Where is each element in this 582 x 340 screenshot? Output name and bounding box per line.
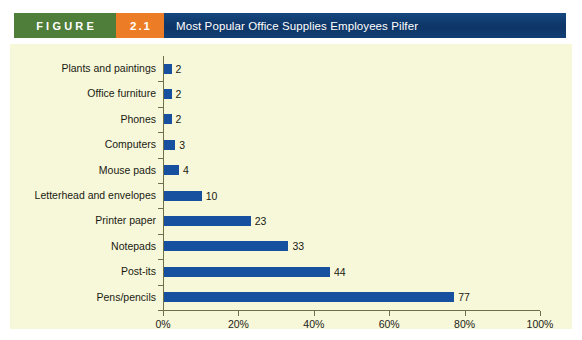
category-label: Computers: [105, 132, 156, 157]
plot-area: Plants and paintings2Office furniture2Ph…: [163, 56, 540, 310]
x-axis-line: [163, 310, 540, 311]
figure-container: FIGURE 2.1 Most Popular Office Supplies …: [0, 0, 582, 340]
bar-value-label: 33: [292, 240, 304, 252]
bar-row: Office furniture2: [164, 81, 541, 106]
figure-title: Most Popular Office Supplies Employees P…: [176, 20, 418, 32]
y-axis-tick: [158, 183, 163, 184]
bar-row: Notepads33: [164, 234, 541, 259]
x-axis-tick-label: 60%: [379, 318, 400, 330]
bar-row: Phones2: [164, 107, 541, 132]
x-axis-tick: [389, 311, 390, 316]
category-label: Pens/pencils: [96, 285, 156, 310]
bar-row: Post-its44: [164, 259, 541, 284]
y-axis-tick: [158, 158, 163, 159]
y-axis-tick: [158, 81, 163, 82]
y-axis-tick: [158, 107, 163, 108]
x-axis-tick: [465, 311, 466, 316]
bar-value-label: 44: [334, 266, 346, 278]
bar: [164, 191, 202, 201]
x-axis-tick-label: 0%: [155, 318, 170, 330]
x-axis-tick-label: 20%: [228, 318, 249, 330]
y-axis-tick: [158, 285, 163, 286]
bar: [164, 140, 175, 150]
y-axis-tick: [158, 208, 163, 209]
category-label: Phones: [120, 107, 156, 132]
x-axis-tick-label: 40%: [303, 318, 324, 330]
bar-row: Pens/pencils77: [164, 285, 541, 310]
category-label: Letterhead and envelopes: [35, 183, 156, 208]
figure-header: FIGURE 2.1 Most Popular Office Supplies …: [14, 13, 566, 38]
bar-row: Computers3: [164, 132, 541, 157]
bar: [164, 165, 179, 175]
category-label: Plants and paintings: [61, 56, 156, 81]
category-label: Notepads: [111, 234, 156, 259]
x-axis-tick-label: 100%: [527, 318, 554, 330]
bar: [164, 64, 172, 74]
x-axis-tick: [540, 311, 541, 316]
bar-value-label: 77: [458, 291, 470, 303]
figure-number-block: 2.1: [116, 13, 164, 38]
bar-row: Letterhead and envelopes10: [164, 183, 541, 208]
bar-row: Plants and paintings2: [164, 56, 541, 81]
y-axis-tick: [158, 234, 163, 235]
bar-value-label: 2: [176, 113, 182, 125]
bar-row: Mouse pads4: [164, 158, 541, 183]
bar-value-label: 2: [176, 88, 182, 100]
figure-word-block: FIGURE: [14, 13, 116, 38]
x-axis-tick-label: 80%: [454, 318, 475, 330]
figure-word-label: FIGURE: [33, 20, 97, 32]
bar-value-label: 4: [183, 164, 189, 176]
category-label: Office furniture: [87, 81, 156, 106]
bar: [164, 216, 251, 226]
figure-number-label: 2.1: [128, 20, 152, 32]
bar: [164, 267, 330, 277]
bar-row: Printer paper23: [164, 208, 541, 233]
bar: [164, 114, 172, 124]
x-axis-tick: [163, 311, 164, 316]
x-axis-tick: [314, 311, 315, 316]
bar: [164, 292, 454, 302]
y-axis-tick: [158, 132, 163, 133]
bar-value-label: 3: [179, 139, 185, 151]
bar-value-label: 23: [255, 215, 267, 227]
category-label: Post-its: [121, 259, 156, 284]
category-label: Mouse pads: [99, 158, 156, 183]
chart-panel: Plants and paintings2Office furniture2Ph…: [10, 44, 572, 329]
bar-value-label: 2: [176, 63, 182, 75]
bar: [164, 241, 288, 251]
y-axis-tick: [158, 259, 163, 260]
figure-title-block: Most Popular Office Supplies Employees P…: [164, 13, 566, 38]
x-axis-tick: [238, 311, 239, 316]
category-label: Printer paper: [95, 208, 156, 233]
bar: [164, 89, 172, 99]
bar-value-label: 10: [206, 190, 218, 202]
